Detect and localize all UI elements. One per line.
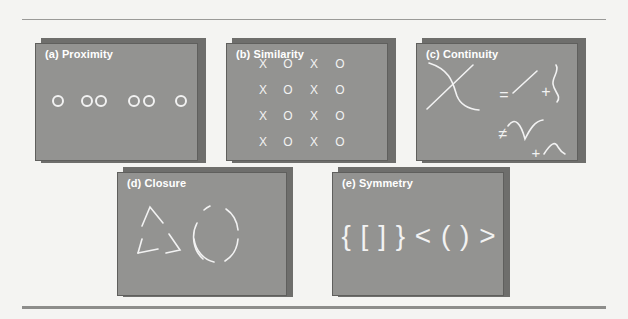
panel-body: (a) Proximity xyxy=(35,43,198,161)
panel-body: (b) Similarity X O X O X O X O X O X O X… xyxy=(226,43,388,161)
svg-text:X: X xyxy=(310,135,318,149)
svg-text:O: O xyxy=(283,83,292,97)
panel-similarity: (b) Similarity X O X O X O X O X O X O X… xyxy=(226,43,396,169)
svg-text:O: O xyxy=(283,135,292,149)
proximity-circles xyxy=(36,44,199,162)
symmetry-brackets: { [ ] } < ( ) > xyxy=(333,173,505,297)
svg-text:O: O xyxy=(335,135,344,149)
panel-body: (d) Closure xyxy=(117,172,287,296)
panel-proximity: (a) Proximity xyxy=(35,43,205,169)
panel-symmetry: (e) Symmetry { [ ] } < ( ) > xyxy=(332,172,510,304)
svg-text:O: O xyxy=(335,109,344,123)
svg-text:X: X xyxy=(259,83,267,97)
svg-text:X: X xyxy=(310,57,318,71)
svg-text:X: X xyxy=(310,109,318,123)
svg-text:+: + xyxy=(532,144,541,161)
svg-text:≠: ≠ xyxy=(499,125,508,142)
similarity-grid: X O X O X O X O X O X O X O X O xyxy=(227,44,389,162)
continuity-curves: = + ≠ + xyxy=(417,44,579,162)
svg-text:{ [ ] } < ( ) >: { [ ] } < ( ) > xyxy=(341,220,496,251)
svg-text:=: = xyxy=(499,86,508,103)
svg-text:+: + xyxy=(541,83,550,100)
panel-body: (c) Continuity = + ≠ + xyxy=(416,43,578,161)
svg-text:O: O xyxy=(283,109,292,123)
svg-text:O: O xyxy=(335,57,344,71)
panel-body: (e) Symmetry { [ ] } < ( ) > xyxy=(332,172,504,296)
svg-text:O: O xyxy=(335,83,344,97)
svg-text:X: X xyxy=(259,57,267,71)
svg-text:X: X xyxy=(259,109,267,123)
svg-text:X: X xyxy=(259,135,267,149)
top-rule xyxy=(22,19,606,20)
bottom-rule xyxy=(22,306,606,309)
svg-text:X: X xyxy=(310,83,318,97)
closure-shapes xyxy=(118,173,288,297)
panel-continuity: (c) Continuity = + ≠ + xyxy=(416,43,586,169)
panel-closure: (d) Closure xyxy=(117,172,293,304)
svg-text:O: O xyxy=(283,57,292,71)
